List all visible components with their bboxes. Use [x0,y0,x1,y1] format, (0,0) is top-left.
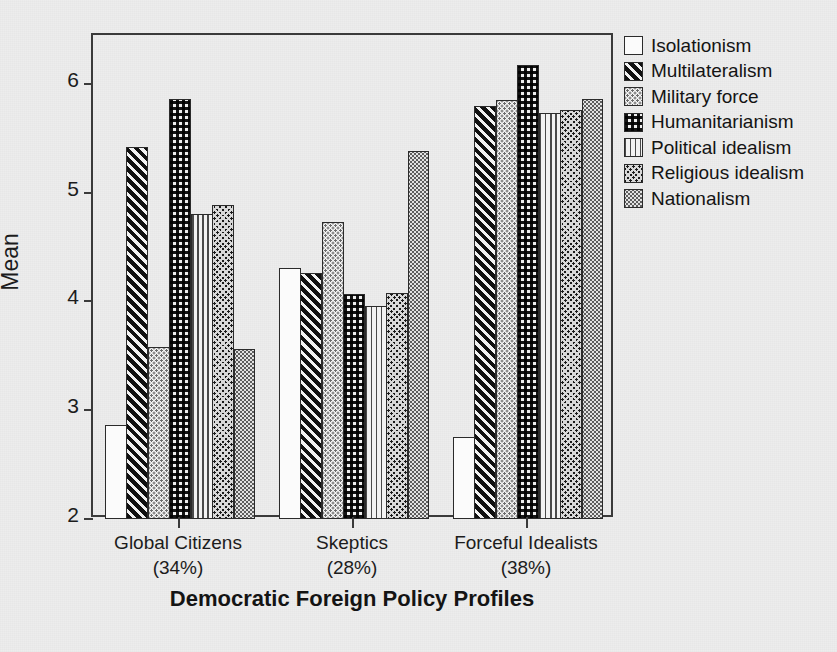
bar [169,99,191,519]
x-axis-tick [178,517,180,528]
legend-swatch-icon [624,164,643,183]
legend-item-label: Humanitarianism [651,111,794,133]
plot-inner [93,35,611,515]
bar [582,99,604,519]
x-axis-group-label-line: (28%) [316,555,388,580]
x-axis-group-label: Skeptics(28%) [316,530,388,580]
x-axis-group-label-line: Skeptics [316,530,388,555]
x-axis-group-label-line: Global Citizens [114,530,242,555]
x-axis-title: Democratic Foreign Policy Profiles [170,586,534,612]
y-axis-tick-label: 4 [49,285,79,309]
x-axis-group-label-line: (34%) [114,555,242,580]
legend-item: Religious idealism [624,161,829,187]
y-axis-tick-label: 3 [49,394,79,418]
chart-legend: IsolationismMultilateralismMilitary forc… [624,33,829,212]
legend-swatch-icon [624,36,643,55]
bar [539,113,561,519]
bar [517,65,539,519]
legend-item: Humanitarianism [624,110,829,136]
legend-item: Political idealism [624,135,829,161]
bar [496,100,518,519]
bar [212,205,234,519]
y-axis-tick [84,83,93,85]
y-axis-tick [84,518,93,520]
bar [126,147,148,519]
y-axis-tick [84,300,93,302]
legend-item: Nationalism [624,186,829,212]
bar [343,294,365,519]
y-axis-tick-label: 5 [49,177,79,201]
bar [453,437,475,519]
y-axis-tick-label: 6 [49,68,79,92]
x-axis-group-label: Forceful Idealists(38%) [454,530,598,580]
legend-item-label: Multilateralism [651,60,772,82]
bar [300,273,322,519]
legend-swatch-icon [624,138,643,157]
y-axis-title: Mean [0,233,24,291]
x-axis-group-label-line: Forceful Idealists [454,530,598,555]
legend-swatch-icon [624,87,643,106]
legend-swatch-icon [624,189,643,208]
bar [474,106,496,519]
legend-item-label: Political idealism [651,137,791,159]
bar [386,293,408,519]
x-axis-tick [352,517,354,528]
x-axis-group-label-line: (38%) [454,555,598,580]
bar [279,268,301,519]
x-axis-group-label: Global Citizens(34%) [114,530,242,580]
legend-swatch-icon [624,62,643,81]
bar [191,214,213,519]
legend-item: Multilateralism [624,59,829,85]
bar [408,151,430,519]
legend-swatch-icon [624,113,643,132]
y-axis-tick [84,409,93,411]
bar [105,425,127,519]
y-axis-tick [84,192,93,194]
legend-item: Isolationism [624,33,829,59]
plot-area [91,33,613,517]
x-axis-tick [526,517,528,528]
bar [560,110,582,519]
legend-item: Military force [624,84,829,110]
bar [148,347,170,519]
y-axis-tick-label: 2 [49,503,79,527]
bar [322,222,344,519]
legend-item-label: Religious idealism [651,162,804,184]
bar [234,349,256,519]
legend-item-label: Isolationism [651,35,751,57]
bar [365,306,387,519]
legend-item-label: Military force [651,86,759,108]
chart-figure: Mean 23456 Global Citizens(34%)Skeptics(… [0,0,837,652]
legend-item-label: Nationalism [651,188,750,210]
